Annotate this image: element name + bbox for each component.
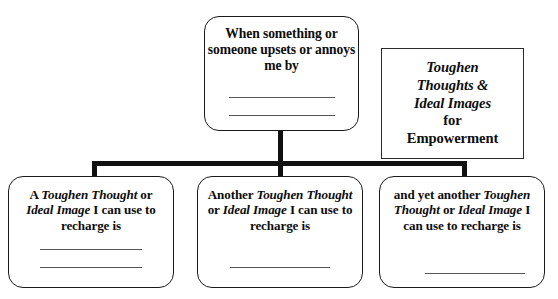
response-box-1[interactable]: A Toughen Thought or Ideal Image I can u… (8, 176, 174, 288)
response-box-1-write-line-2[interactable] (40, 267, 142, 268)
title-box: Toughen Thoughts & Ideal Images for Empo… (381, 48, 524, 159)
seg-1-0: A (29, 187, 41, 202)
title-line-3: Ideal Images (414, 95, 491, 111)
response-box-1-text: A Toughen Thought or Ideal Image I can u… (9, 187, 173, 233)
seg-2-0: Another (208, 187, 257, 202)
seg-2-2: or (208, 202, 223, 217)
seg-3-0: and yet another (394, 187, 483, 202)
connector-stem-top (278, 130, 283, 165)
prompt-box[interactable]: When something or someone upsets or anno… (204, 16, 359, 131)
response-box-2[interactable]: Another Toughen Thought or Ideal Image I… (197, 176, 363, 288)
title-line-5: Empowerment (407, 130, 498, 146)
seg-2-1: Toughen Thought (256, 187, 352, 202)
worksheet-canvas: When something or someone upsets or anno… (0, 0, 558, 299)
response-box-2-write-line-1[interactable] (230, 267, 330, 268)
seg-3-2: or (440, 202, 458, 217)
prompt-box-write-line-1[interactable] (229, 97, 335, 98)
seg-2-3: Ideal Image (223, 202, 287, 217)
response-box-2-text: Another Toughen Thought or Ideal Image I… (198, 187, 362, 233)
response-box-3-write-line-1[interactable] (425, 273, 525, 274)
seg-1-1: Toughen Thought (41, 187, 137, 202)
response-box-3-text: and yet another Toughen Thought or Ideal… (380, 187, 544, 233)
seg-3-3: Ideal Image (458, 202, 522, 217)
title-line-2: Thoughts & (417, 77, 489, 93)
title-box-text: Toughen Thoughts & Ideal Images for Empo… (407, 59, 498, 147)
seg-1-3: Ideal Image (26, 202, 90, 217)
prompt-box-text: When something or someone upsets or anno… (205, 26, 358, 74)
title-line-4: for (443, 112, 461, 128)
response-box-3[interactable]: and yet another Toughen Thought or Ideal… (379, 176, 545, 288)
prompt-box-write-line-2[interactable] (229, 115, 335, 116)
seg-1-2: or (137, 187, 152, 202)
title-line-1: Toughen (426, 59, 478, 75)
response-box-1-write-line-1[interactable] (40, 249, 142, 250)
